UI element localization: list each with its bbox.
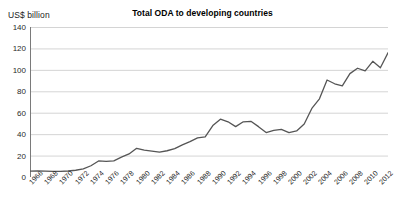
y-tick-label: 40	[17, 130, 26, 139]
y-tick-label: 140	[13, 23, 26, 32]
y-tick-label: 60	[17, 108, 26, 117]
chart-container: US$ billion Total ODA to developing coun…	[0, 0, 405, 216]
x-axis-tick-labels: 1966196819701972197419761978198019821984…	[30, 177, 388, 216]
chart-title: Total ODA to developing countries	[0, 8, 405, 18]
y-tick-label: 0	[22, 173, 26, 182]
y-tick-label: 120	[13, 44, 26, 53]
y-tick-label: 100	[13, 65, 26, 74]
y-tick-label: 80	[17, 87, 26, 96]
y-axis-tick-labels: 140120100806040200	[0, 27, 30, 177]
y-tick-label: 20	[17, 151, 26, 160]
plot-area	[30, 27, 388, 177]
data-line-series	[30, 27, 388, 177]
